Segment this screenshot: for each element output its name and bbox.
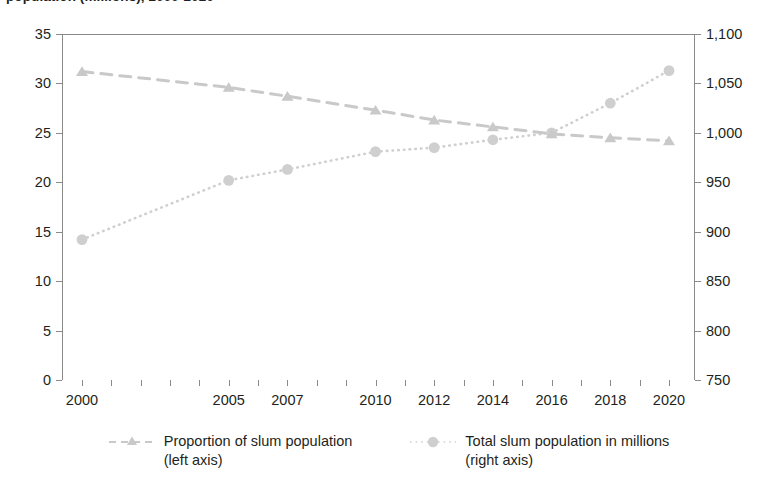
right-tick (695, 331, 701, 332)
right-tick-label: 850 (706, 274, 730, 289)
bottom-axis-tick-label: 2007 (271, 393, 303, 408)
right-tick (695, 133, 701, 134)
data-point-marker (223, 175, 234, 186)
data-point-marker (370, 146, 381, 157)
bottom-axis-tick (464, 380, 465, 386)
bottom-axis-tick (669, 380, 670, 386)
right-tick (695, 380, 701, 381)
left-tick (56, 380, 62, 381)
right-tick-label: 1,100 (706, 27, 742, 42)
bottom-axis-tick-label: 2010 (359, 393, 391, 408)
bottom-axis-tick (522, 380, 523, 386)
bottom-axis-tick-label: 2014 (477, 393, 509, 408)
bottom-axis-tick (317, 380, 318, 386)
left-tick-label: 0 (43, 373, 51, 388)
right-tick (695, 281, 701, 282)
right-tick (695, 232, 701, 233)
dashed-line-triangle-marker-icon (109, 433, 155, 451)
bottom-axis-tick (346, 380, 347, 386)
bottom-axis-tick (111, 380, 112, 386)
bottom-axis-tick (552, 380, 553, 386)
legend-label-proportion: Proportion of slum population (left axis… (164, 432, 353, 470)
legend-item-total[interactable]: Total slum population in millions (right… (410, 432, 669, 470)
bottom-axis-tick (610, 380, 611, 386)
bottom-axis-tick (405, 380, 406, 386)
data-point-marker (282, 164, 293, 175)
right-tick-label: 950 (706, 175, 730, 190)
left-tick-label: 10 (35, 274, 51, 289)
data-point-marker (429, 142, 440, 153)
right-tick-label: 1,000 (706, 126, 742, 141)
bottom-axis-tick (493, 380, 494, 386)
bottom-axis-tick-label: 2018 (594, 393, 626, 408)
bottom-axis-tick (170, 380, 171, 386)
bottom-axis-tick (376, 380, 377, 386)
chart-title: population (millions), 2000-2020 (6, 0, 214, 4)
right-tick (695, 182, 701, 183)
right-tick (695, 83, 701, 84)
bottom-axis-tick-label: 2020 (653, 393, 685, 408)
bottom-axis-tick (434, 380, 435, 386)
right-tick-label: 1,050 (706, 76, 742, 91)
plot-area: 05101520253035 7508008509009501,0001,050… (62, 34, 695, 380)
bottom-axis-tick (82, 380, 83, 386)
bottom-axis-tick (640, 380, 641, 386)
data-point-marker (77, 234, 88, 245)
bottom-axis-tick-label: 2012 (418, 393, 450, 408)
legend-item-proportion[interactable]: Proportion of slum population (left axis… (109, 432, 353, 470)
left-tick-label: 15 (35, 224, 51, 239)
bottom-axis-tick (229, 380, 230, 386)
left-tick-label: 35 (35, 27, 51, 42)
data-point-marker (664, 65, 675, 76)
bottom-axis-tick (287, 380, 288, 386)
dotted-line-circle-marker-icon (410, 433, 456, 451)
left-tick-label: 25 (35, 126, 51, 141)
bottom-axis-tick (141, 380, 142, 386)
data-point-marker (663, 136, 675, 146)
bottom-axis-tick-label: 2000 (66, 393, 98, 408)
series-plot (62, 34, 695, 380)
bottom-axis-tick (581, 380, 582, 386)
left-tick-label: 5 (43, 323, 51, 338)
bottom-axis-tick-label: 2016 (535, 393, 567, 408)
data-point-marker (605, 98, 616, 109)
bottom-axis-tick-label: 2005 (213, 393, 245, 408)
bottom-axis-tick (258, 380, 259, 386)
chart-legend: Proportion of slum population (left axis… (0, 432, 778, 470)
right-tick-label: 900 (706, 224, 730, 239)
right-tick-label: 750 (706, 373, 730, 388)
legend-label-total: Total slum population in millions (right… (465, 432, 669, 470)
right-tick-label: 800 (706, 323, 730, 338)
chart-container: population (millions), 2000-2020 0510152… (0, 0, 778, 492)
right-tick (695, 34, 701, 35)
left-tick-label: 20 (35, 175, 51, 190)
left-tick-label: 30 (35, 76, 51, 91)
data-point-marker (488, 134, 499, 145)
bottom-axis-tick (199, 380, 200, 386)
